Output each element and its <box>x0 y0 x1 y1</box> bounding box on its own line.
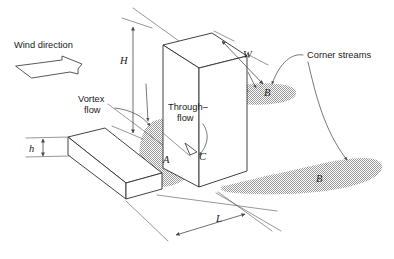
corner-streams-label: Corner streams <box>307 50 371 60</box>
dimension-L: L <box>126 192 272 241</box>
L-extension-right <box>218 192 272 231</box>
region-label-A: A <box>162 154 170 165</box>
vortex-flow-label-line2: flow <box>84 105 101 115</box>
dimension-label-W: W <box>243 49 253 60</box>
wind-flow-diagram: H W h L Wind direction <box>0 0 394 259</box>
W-extension-right <box>249 55 268 65</box>
L-extension-left <box>126 201 168 241</box>
through-flow-label-line1: Through– <box>168 102 209 112</box>
h-extension-bottom <box>26 156 70 157</box>
base-line-low-building <box>157 195 277 211</box>
dimension-label-h: h <box>29 143 34 154</box>
H-extension-top <box>122 18 152 28</box>
vortex-flow-leader <box>115 108 150 126</box>
wind-direction-group: Wind direction <box>14 40 82 78</box>
diagram-canvas: H W h L Wind direction <box>0 0 394 259</box>
corner-streams-leader-far <box>308 62 347 160</box>
L-dimension-line <box>176 214 245 235</box>
wind-arrow-icon <box>16 56 82 78</box>
tall-building-side-face <box>199 56 247 187</box>
dimension-label-L: L <box>215 213 222 224</box>
region-label-B-far: B <box>316 173 323 184</box>
region-label-C: C <box>199 151 207 162</box>
h-extension-top <box>26 137 70 138</box>
dimension-h: h <box>26 137 70 157</box>
through-flow-label-line2: flow <box>177 113 194 123</box>
base-line-tall-building <box>216 193 281 231</box>
vortex-flow-label-line1: Vortex <box>78 94 105 104</box>
dimension-label-H: H <box>119 55 129 66</box>
wind-direction-label: Wind direction <box>14 40 73 50</box>
corner-streams-leader-near <box>272 55 303 84</box>
vortex-downflow-arrow <box>146 84 148 121</box>
region-label-B-near: B <box>264 87 271 98</box>
